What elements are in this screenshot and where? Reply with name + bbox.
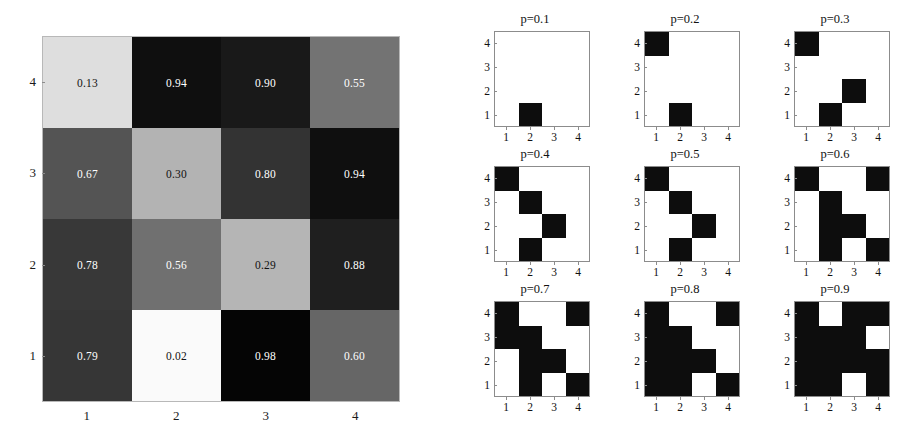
binary-subplot-cell <box>566 349 590 373</box>
binary-subplot-x-tickmark <box>656 262 657 265</box>
binary-subplot-cell <box>495 167 519 191</box>
binary-subplot-cell <box>842 214 866 238</box>
value-matrix-cell: 0.79 <box>43 310 132 401</box>
binary-subplot-cell <box>542 373 566 397</box>
binary-subplot-cell <box>866 167 890 191</box>
binary-subplot-cell <box>566 238 590 262</box>
binary-subplot-x-tickmark <box>704 397 705 400</box>
binary-subplot-y-tick: 1 <box>778 379 790 391</box>
binary-subplot-cell <box>716 238 740 262</box>
binary-subplot-x-tickmark <box>878 262 879 265</box>
value-matrix-x-tick: 4 <box>335 408 375 424</box>
binary-subplot-cell <box>842 167 866 191</box>
binary-subplot-y-tick: 2 <box>628 85 640 97</box>
binary-subplot-y-tickmark <box>794 202 797 203</box>
binary-subplot-y-tick: 1 <box>628 244 640 256</box>
binary-subplot-cell <box>669 214 693 238</box>
binary-subplot-cell <box>645 167 669 191</box>
binary-subplot: p=0.743211234 <box>460 282 610 429</box>
binary-subplot-x-tick: 4 <box>716 401 740 413</box>
value-matrix-cell-label: 0.78 <box>77 259 98 271</box>
value-matrix-cell-label: 0.94 <box>166 77 187 89</box>
binary-subplot-x-tickmark <box>554 127 555 130</box>
binary-subplot-y-tickmark <box>494 178 497 179</box>
binary-subplot-x-tickmark <box>830 397 831 400</box>
binary-subplot-x-tick: 2 <box>518 401 542 413</box>
binary-subplot-x-tickmark <box>728 127 729 130</box>
binary-subplot-cell <box>495 79 519 103</box>
binary-subplot-cell <box>519 79 543 103</box>
binary-subplot-cell <box>519 167 543 191</box>
binary-subplot-x-tickmark <box>704 262 705 265</box>
binary-subplot-x-tick: 3 <box>692 401 716 413</box>
binary-subplot-cell <box>716 167 740 191</box>
binary-subplot-y-tickmark <box>644 361 647 362</box>
binary-subplot-cell <box>519 191 543 215</box>
binary-subplot-x-tick: 1 <box>494 266 518 278</box>
value-matrix-cell-label: 0.88 <box>344 259 365 271</box>
binary-subplot-cell <box>842 238 866 262</box>
binary-subplot-cell <box>495 373 519 397</box>
value-matrix-cell: 0.90 <box>221 37 310 128</box>
binary-subplot-y-tick: 2 <box>628 220 640 232</box>
binary-subplot-cell <box>645 302 669 326</box>
binary-subplot-grid <box>644 166 740 262</box>
binary-subplot-x-tickmark <box>680 262 681 265</box>
binary-subplot-x-tickmark <box>680 397 681 400</box>
binary-subplot-cell <box>542 167 566 191</box>
binary-subplot-cell <box>795 79 819 103</box>
binary-subplot-cell <box>866 238 890 262</box>
binary-subplot-x-tick: 2 <box>668 266 692 278</box>
binary-subplot-cell <box>692 214 716 238</box>
binary-subplot-cell <box>795 103 819 127</box>
binary-subplot-x-tick: 4 <box>566 266 590 278</box>
binary-subplot-cell <box>669 191 693 215</box>
binary-subplot-cell <box>716 349 740 373</box>
binary-subplot-y-tick: 4 <box>778 172 790 184</box>
binary-subplot-cell <box>866 56 890 80</box>
value-matrix-cell: 0.13 <box>43 37 132 128</box>
binary-subplot-x-tickmark <box>830 127 831 130</box>
value-matrix-cell-label: 0.29 <box>255 259 276 271</box>
value-matrix-cell: 0.67 <box>43 128 132 219</box>
binary-subplot-x-tick: 4 <box>866 266 890 278</box>
binary-subplot-cell <box>716 214 740 238</box>
binary-subplot-x-tickmark <box>854 262 855 265</box>
value-matrix-cell-label: 0.98 <box>255 350 276 362</box>
binary-subplot-y-tick: 3 <box>778 331 790 343</box>
binary-subplot-cell <box>819 32 843 56</box>
binary-subplot-cell <box>542 103 566 127</box>
binary-subplot-y-tickmark <box>494 361 497 362</box>
binary-subplot-y-tick: 1 <box>478 109 490 121</box>
binary-subplot-cell <box>819 214 843 238</box>
binary-subplot-x-tickmark <box>656 127 657 130</box>
binary-subplot-y-tickmark <box>644 91 647 92</box>
binary-subplot-cell <box>819 56 843 80</box>
binary-subplot-cell <box>716 103 740 127</box>
binary-subplot-x-tickmark <box>506 262 507 265</box>
binary-subplot-y-tick: 1 <box>628 109 640 121</box>
binary-subplot-cell <box>795 349 819 373</box>
binary-subplot-cell <box>566 302 590 326</box>
binary-subplot-cell <box>542 79 566 103</box>
binary-subplot-cell <box>819 167 843 191</box>
binary-subplot-cell <box>645 32 669 56</box>
binary-subplot-x-tick: 3 <box>542 401 566 413</box>
binary-subplot-x-tick: 1 <box>644 131 668 143</box>
value-matrix-cell: 0.94 <box>310 128 399 219</box>
binary-subplot-cell <box>716 79 740 103</box>
binary-subplot-cell <box>669 79 693 103</box>
value-matrix-y-tick: 1 <box>22 348 36 364</box>
binary-subplot-cell <box>669 103 693 127</box>
binary-subplot-x-tickmark <box>830 262 831 265</box>
binary-subplot-x-tick: 3 <box>692 131 716 143</box>
binary-subplot-cell <box>866 103 890 127</box>
binary-subplot-cell <box>819 103 843 127</box>
binary-subplot-x-tick: 3 <box>542 131 566 143</box>
binary-subplot-x-tick: 1 <box>644 266 668 278</box>
binary-subplot-x-tick: 3 <box>692 266 716 278</box>
binary-subplot-cell <box>866 349 890 373</box>
binary-subplot-y-tickmark <box>644 115 647 116</box>
binary-subplot-y-tickmark <box>794 361 797 362</box>
binary-subplot-cell <box>645 349 669 373</box>
